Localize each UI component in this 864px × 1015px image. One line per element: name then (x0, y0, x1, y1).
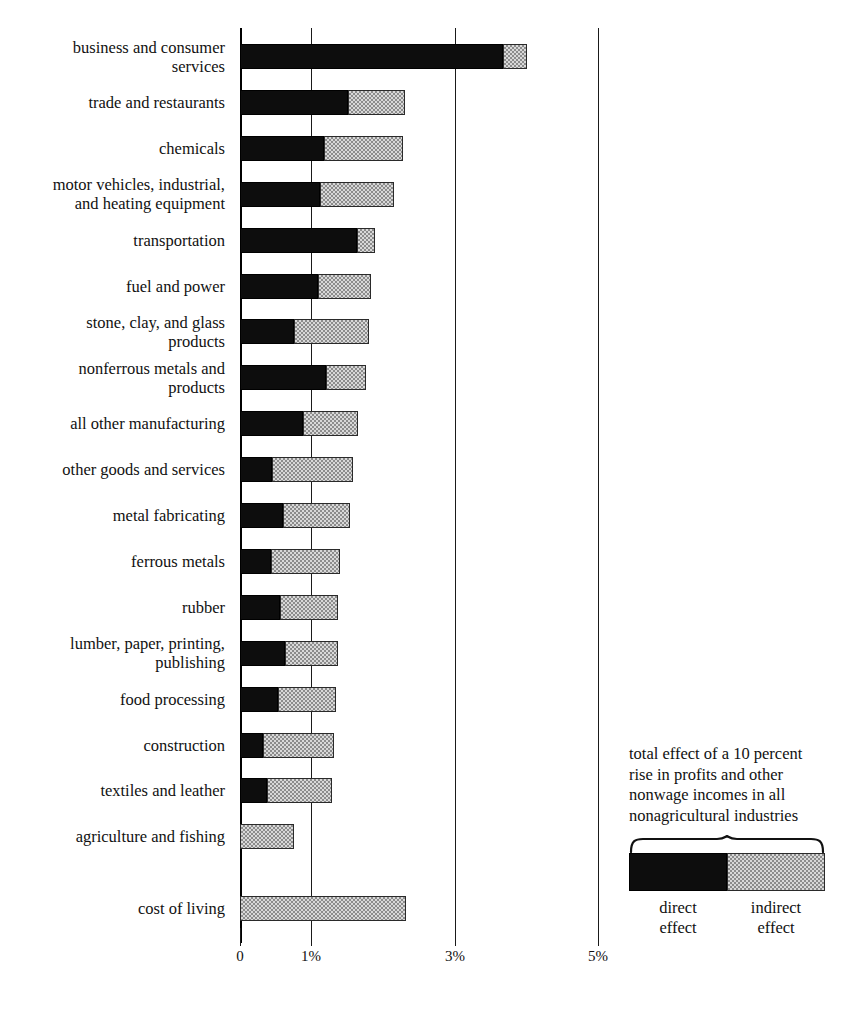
stacked-bar (240, 365, 366, 390)
stacked-bar (240, 733, 334, 758)
bar-segment-direct (240, 595, 280, 620)
legend-key-indirect: indirect effect (727, 898, 825, 938)
category-label: stone, clay, and glass products (86, 313, 225, 351)
category-label: lumber, paper, printing, publishing (70, 634, 225, 672)
x-tick-mark (240, 928, 241, 946)
bar-row: all other manufacturing (0, 411, 864, 436)
stacked-bar (240, 549, 340, 574)
category-label: construction (143, 736, 225, 755)
bar-segment-indirect (278, 687, 336, 712)
x-tick-label-1pct: 1% (291, 948, 331, 965)
bar-segment-direct (240, 365, 326, 390)
category-label: fuel and power (126, 277, 225, 296)
stacked-bar (240, 44, 527, 69)
stacked-bar (240, 319, 369, 344)
bar-row: other goods and services (0, 457, 864, 482)
bar-chart: 0 1% 3% 5% business and consumer service… (0, 0, 864, 1015)
category-label: agriculture and fishing (76, 827, 225, 846)
stacked-bar (240, 824, 294, 849)
bar-segment-indirect (267, 778, 332, 803)
x-tick-label-3pct: 3% (435, 948, 475, 965)
bar-segment-direct (240, 503, 283, 528)
bar-segment-indirect (272, 457, 353, 482)
stacked-bar (240, 411, 358, 436)
legend-direct-swatch (629, 853, 727, 891)
bar-segment-direct (240, 549, 271, 574)
bar-segment-indirect (285, 641, 338, 666)
bar-segment-direct (240, 182, 320, 207)
bar-row: business and consumer services (0, 44, 864, 69)
stacked-bar (240, 896, 406, 921)
bar-segment-direct (240, 228, 357, 253)
bar-segment-indirect (324, 136, 403, 161)
legend-brace-icon (629, 835, 829, 853)
bar-segment-indirect (283, 503, 350, 528)
bar-segment-direct (240, 687, 278, 712)
stacked-bar (240, 182, 394, 207)
category-label: ferrous metals (131, 552, 225, 571)
bar-segment-direct (240, 778, 267, 803)
legend-indirect-swatch (727, 853, 825, 891)
bar-row: food processing (0, 687, 864, 712)
stacked-bar (240, 595, 338, 620)
stacked-bar (240, 274, 371, 299)
bar-row: trade and restaurants (0, 90, 864, 115)
bar-segment-indirect (240, 824, 294, 849)
category-label: all other manufacturing (70, 414, 225, 433)
gridline-5pct (598, 28, 599, 943)
bar-segment-indirect (271, 549, 340, 574)
bar-segment-indirect (357, 228, 375, 253)
stacked-bar (240, 457, 353, 482)
bar-row: nonferrous metals and products (0, 365, 864, 390)
legend-caption: total effect of a 10 percent rise in pro… (629, 744, 829, 826)
category-label: metal fabricating (113, 506, 225, 525)
category-label: motor vehicles, industrial, and heating … (53, 175, 225, 213)
bar-segment-direct (240, 90, 348, 115)
stacked-bar (240, 90, 405, 115)
bar-segment-indirect (280, 595, 338, 620)
legend-key-direct: direct effect (629, 898, 727, 938)
gridline-0 (240, 28, 242, 943)
bar-row: transportation (0, 228, 864, 253)
category-label: other goods and services (62, 460, 225, 479)
bar-segment-indirect (303, 411, 358, 436)
bar-row: lumber, paper, printing, publishing (0, 641, 864, 666)
category-label: trade and restaurants (88, 93, 225, 112)
stacked-bar (240, 228, 375, 253)
bar-row: rubber (0, 595, 864, 620)
x-tick-label-0: 0 (220, 948, 260, 965)
bar-row: ferrous metals (0, 549, 864, 574)
bar-segment-indirect (240, 896, 406, 921)
bar-row: fuel and power (0, 274, 864, 299)
stacked-bar (240, 641, 338, 666)
x-tick-mark (598, 928, 599, 946)
legend-swatch-bar (629, 853, 825, 891)
bar-segment-indirect (263, 733, 334, 758)
category-label: business and consumer services (73, 38, 225, 76)
bar-row: motor vehicles, industrial, and heating … (0, 182, 864, 207)
bar-segment-direct (240, 641, 285, 666)
x-tick-mark (311, 928, 312, 946)
bar-segment-direct (240, 319, 294, 344)
category-label: chemicals (159, 139, 225, 158)
bar-segment-direct (240, 457, 272, 482)
category-label: textiles and leather (100, 781, 225, 800)
stacked-bar (240, 687, 336, 712)
bar-segment-indirect (320, 182, 394, 207)
bar-segment-indirect (294, 319, 368, 344)
bar-segment-indirect (318, 274, 371, 299)
x-tick-mark (455, 928, 456, 946)
bar-row: stone, clay, and glass products (0, 319, 864, 344)
bar-segment-indirect (348, 90, 405, 115)
bar-row: chemicals (0, 136, 864, 161)
stacked-bar (240, 778, 332, 803)
bar-segment-indirect (503, 44, 527, 69)
category-label: cost of living (138, 899, 225, 918)
category-label: rubber (182, 598, 225, 617)
bar-segment-indirect (326, 365, 366, 390)
chart-legend: total effect of a 10 percent rise in pro… (629, 744, 829, 938)
gridline-1pct (311, 28, 312, 943)
bar-segment-direct (240, 136, 324, 161)
gridline-3pct (455, 28, 456, 943)
stacked-bar (240, 503, 350, 528)
